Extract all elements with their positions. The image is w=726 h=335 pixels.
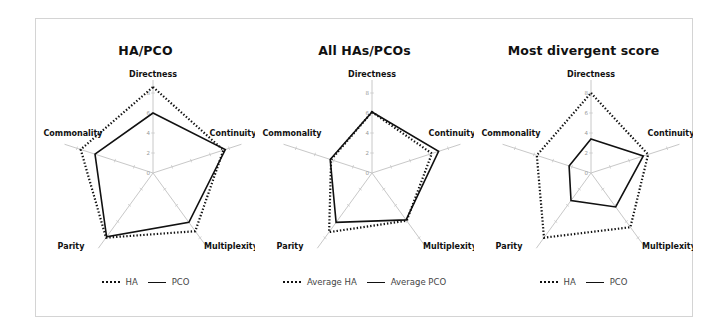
radar-panel-most-divergent: Most divergent score 02468DirectnessCont… xyxy=(474,19,693,318)
axis-spoke xyxy=(503,144,591,173)
radar-plot: 02468DirectnessContinuityMultiplexityPar… xyxy=(36,19,255,318)
axis-spoke xyxy=(372,144,460,173)
series-dotted xyxy=(81,87,224,238)
axis-label-continuity: Continuity xyxy=(429,129,474,138)
tick-label: 0 xyxy=(366,170,370,176)
tick-label: 2 xyxy=(585,150,589,156)
dotted-line-icon xyxy=(540,281,558,283)
radar-panel-ha-pco: HA/PCO 02468DirectnessContinuityMultiple… xyxy=(36,19,255,318)
dotted-line-icon xyxy=(283,281,301,283)
axis-spoke xyxy=(591,144,679,173)
legend-item-dotted: HA xyxy=(540,277,576,287)
radar-plot: 02468DirectnessContinuityMultiplexityPar… xyxy=(255,19,474,318)
solid-line-icon xyxy=(586,282,604,283)
axis-label-continuity: Continuity xyxy=(210,129,255,138)
axis-label-parity: Parity xyxy=(496,242,524,251)
tick-label: 4 xyxy=(366,130,370,136)
legend-item-dotted: Average HA xyxy=(283,277,357,287)
axis-label-commonality: Commonality xyxy=(481,129,541,138)
axis-label-multiplexity: Multiplexity xyxy=(423,242,474,251)
axis-label-parity: Parity xyxy=(277,242,305,251)
axis-spoke xyxy=(317,173,372,248)
radar-plot: 02468DirectnessContinuityMultiplexityPar… xyxy=(474,19,693,318)
axis-label-multiplexity: Multiplexity xyxy=(204,242,255,251)
tick-label: 8 xyxy=(366,90,370,96)
axis-label-continuity: Continuity xyxy=(648,129,693,138)
legend-item-solid: PCO xyxy=(586,277,628,287)
legend-label: Average HA xyxy=(307,277,357,287)
tick-label: 8 xyxy=(585,90,589,96)
series-dotted xyxy=(537,93,648,238)
legend-label: PCO xyxy=(610,277,628,287)
figure-frame: HA/PCO 02468DirectnessContinuityMultiple… xyxy=(35,18,693,317)
legend-label: PCO xyxy=(172,277,190,287)
series-solid xyxy=(330,112,438,222)
tick-label: 0 xyxy=(147,170,151,176)
axis-label-directness: Directness xyxy=(567,70,615,79)
tick-label: 2 xyxy=(147,150,151,156)
legend-label: HA xyxy=(126,277,138,287)
radar-panel-all-has-pcos: All HAs/PCOs 02468DirectnessContinuityMu… xyxy=(255,19,474,318)
axis-label-commonality: Commonality xyxy=(262,129,322,138)
tick-label: 4 xyxy=(147,130,151,136)
solid-line-icon xyxy=(148,282,166,283)
axis-label-parity: Parity xyxy=(58,242,86,251)
axis-spoke xyxy=(591,173,646,248)
legend: Average HA Average PCO xyxy=(255,277,474,287)
series-solid xyxy=(569,139,643,207)
tick-label: 4 xyxy=(585,130,589,136)
axis-spoke xyxy=(153,144,241,173)
series-dotted xyxy=(329,112,432,232)
axis-label-directness: Directness xyxy=(129,70,177,79)
axis-label-multiplexity: Multiplexity xyxy=(642,242,693,251)
legend-item-dotted: HA xyxy=(102,277,138,287)
series-solid xyxy=(95,113,225,237)
axis-spoke xyxy=(372,173,427,248)
solid-line-icon xyxy=(367,282,385,283)
tick-label: 0 xyxy=(585,170,589,176)
axis-spoke xyxy=(153,173,208,248)
axis-label-commonality: Commonality xyxy=(43,129,103,138)
legend-item-solid: Average PCO xyxy=(367,277,446,287)
axis-spoke xyxy=(284,144,372,173)
legend: HA PCO xyxy=(36,277,255,287)
legend-label: HA xyxy=(564,277,576,287)
legend: HA PCO xyxy=(474,277,693,287)
legend-label: Average PCO xyxy=(391,277,446,287)
dotted-line-icon xyxy=(102,281,120,283)
tick-label: 6 xyxy=(585,110,589,116)
legend-item-solid: PCO xyxy=(148,277,190,287)
axis-spoke xyxy=(65,144,153,173)
axis-label-directness: Directness xyxy=(348,70,396,79)
tick-label: 2 xyxy=(366,150,370,156)
